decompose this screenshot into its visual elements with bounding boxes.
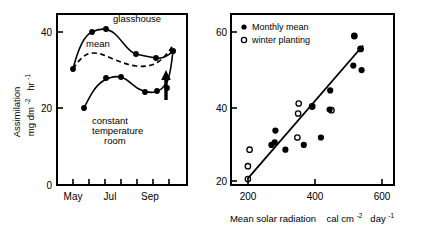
ctr-label-line3: room: [104, 135, 126, 146]
svg-text:Assimilation: Assimilation: [11, 87, 22, 138]
glasshouse-label: glasshouse: [113, 13, 161, 24]
right-xaxis-units-b-sup: -1: [388, 212, 394, 219]
figure-svg: 0 20 40 May Jul Sep Assimilation: [0, 0, 425, 232]
left-ytick-0: 0: [46, 180, 52, 191]
left-panel: 0 20 40 May Jul Sep Assimilation: [11, 13, 187, 202]
left-ytick-20: 20: [41, 103, 53, 114]
right-xtick-400: 400: [307, 191, 324, 202]
right-xaxis-label-main: Mean solar radiation: [230, 213, 316, 224]
right-xaxis-units-a: cal cm: [327, 213, 355, 224]
left-yaxis-label: Assimilation: [11, 87, 22, 138]
figure-container: 0 20 40 May Jul Sep Assimilation: [0, 0, 425, 232]
right-xaxis-units-a-sup: -2: [357, 212, 363, 219]
winter-planting-points: [245, 101, 334, 182]
legend-filled-label: Monthly mean: [252, 22, 309, 32]
right-legend: Monthly mean winter planting: [241, 22, 310, 45]
left-xtick-sep: Sep: [141, 191, 159, 202]
right-ytick-20: 20: [216, 176, 228, 187]
right-xaxis-label: Mean solar radiation cal cm -2 day -1: [230, 209, 395, 224]
left-yaxis-units-a: mg dm: [25, 107, 36, 136]
left-yaxis-label-main: Assimilation: [11, 87, 22, 138]
legend-open-marker: [241, 37, 246, 42]
glasshouse-markers: [70, 26, 176, 72]
ctr-curve: [84, 51, 173, 108]
glasshouse-curve: [73, 29, 173, 69]
mean-label: mean: [86, 38, 110, 49]
left-yaxis-units: mg dm -2 hr -1: [21, 73, 36, 136]
right-xtick-600: 600: [374, 191, 391, 202]
regression-line: [247, 46, 363, 180]
right-panel: 20 40 60 200 400 600 Mean solar radiatio…: [216, 14, 395, 224]
legend-open-label: winter planting: [251, 35, 310, 45]
right-ytick-60: 60: [216, 27, 228, 38]
right-xaxis-units-b: day: [370, 213, 386, 224]
left-xtick-jul: Jul: [104, 191, 117, 202]
left-xtick-may: May: [64, 191, 83, 202]
left-yaxis-units-b: hr: [25, 82, 36, 90]
right-ytick-40: 40: [216, 103, 228, 114]
left-yaxis-units-b-sup: -1: [24, 73, 31, 79]
legend-filled-marker: [241, 24, 246, 29]
right-xtick-200: 200: [240, 191, 257, 202]
svg-text:mg dm -2: mg dm -2 hr -1: [21, 73, 36, 136]
left-ytick-40: 40: [41, 27, 53, 38]
left-yaxis-units-a-sup: -2: [24, 98, 31, 104]
monthly-mean-points: [268, 33, 364, 153]
